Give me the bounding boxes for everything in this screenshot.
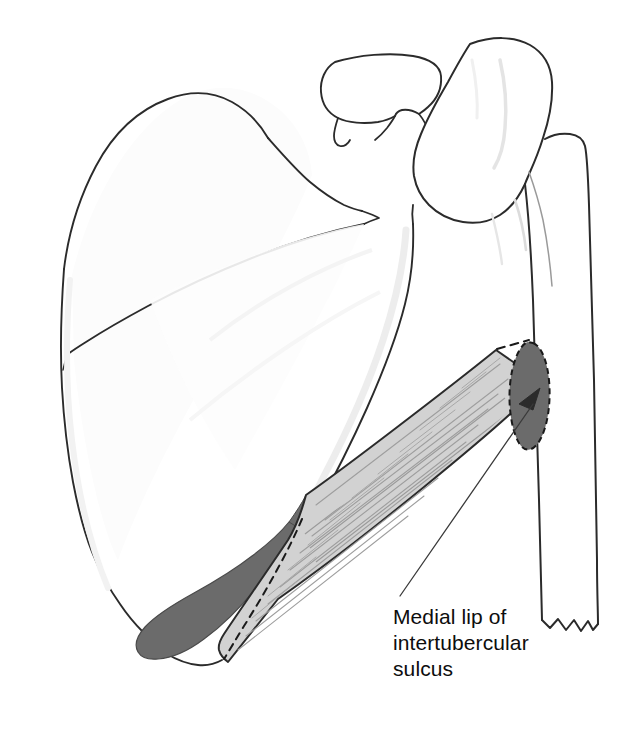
label-medial-lip-of-intertubercular-sulcus: Medial lip of intertubercular sulcus — [393, 604, 529, 682]
humerus — [413, 38, 598, 631]
label-line-2: intertubercular — [393, 630, 529, 656]
humerus-cut-end-jagged — [542, 619, 598, 631]
acromion-outline — [321, 54, 441, 123]
scapula-neck — [412, 205, 413, 224]
label-line-1: Medial lip of — [393, 604, 529, 630]
anatomy-illustration — [0, 0, 628, 732]
humerus-shaft-lateral-outline — [545, 134, 598, 624]
anatomy-figure: Medial lip of intertubercular sulcus — [0, 0, 628, 732]
humerus-neck-marking-2 — [492, 214, 502, 264]
label-line-3: sulcus — [393, 656, 529, 682]
humerus-neck-marking-1 — [515, 200, 526, 250]
insertion-attachment-mark — [509, 342, 549, 450]
spine-acromion-notch — [362, 211, 379, 224]
